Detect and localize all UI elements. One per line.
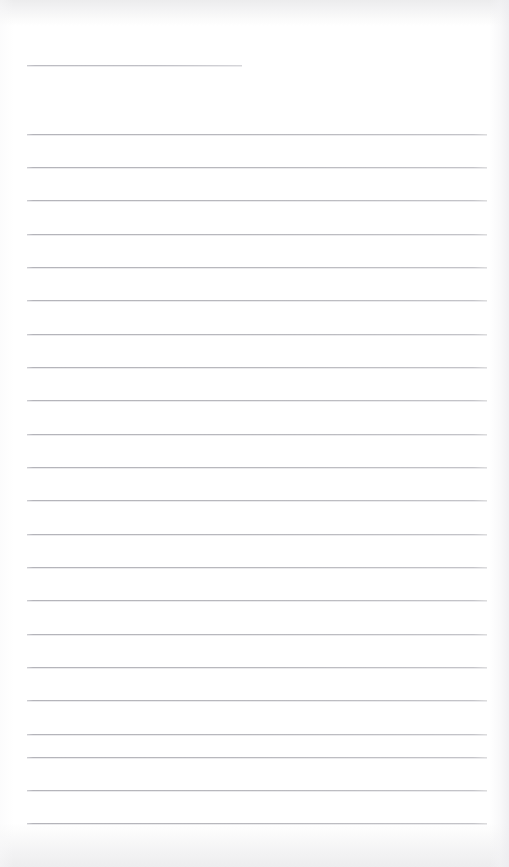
title-write-area[interactable] <box>27 48 242 66</box>
paper-left-edge-shading <box>0 0 14 867</box>
paper-top-edge-shading <box>0 0 509 26</box>
paper-right-edge-shading <box>489 0 509 867</box>
writing-area[interactable] <box>27 120 487 830</box>
lined-paper-page <box>0 0 509 867</box>
